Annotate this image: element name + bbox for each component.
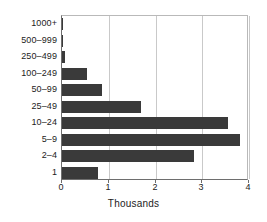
y-axis-tick-label: 500–999 bbox=[0, 35, 57, 45]
bar bbox=[62, 51, 65, 63]
y-axis-tick-label: 2–4 bbox=[0, 150, 57, 160]
bar-row bbox=[62, 84, 249, 96]
y-axis-tick-label: 100–249 bbox=[0, 68, 57, 78]
y-axis-tick-label: 25–49 bbox=[0, 101, 57, 111]
y-axis-tick-labels: 1000+500–999250–499100–24950–9925–4910–2… bbox=[0, 15, 57, 180]
x-axis-tick-label: 2 bbox=[152, 182, 157, 193]
y-axis-tick-label: 1 bbox=[0, 167, 57, 177]
bar bbox=[62, 68, 87, 80]
y-axis-tick-label: 10–24 bbox=[0, 117, 57, 127]
x-axis-tick-label: 4 bbox=[245, 182, 250, 193]
plot-area bbox=[61, 15, 248, 180]
bar-row bbox=[62, 101, 249, 113]
x-axis-tick-label: 0 bbox=[58, 182, 63, 193]
bar bbox=[62, 167, 98, 179]
y-axis-tick-label: 1000+ bbox=[0, 18, 57, 28]
x-axis-tick-label: 1 bbox=[105, 182, 110, 193]
bar bbox=[62, 134, 240, 146]
bar bbox=[62, 101, 141, 113]
bar bbox=[62, 117, 228, 129]
bar-row bbox=[62, 117, 249, 129]
bar-row bbox=[62, 167, 249, 179]
bar bbox=[62, 150, 194, 162]
x-axis-title: Thousands bbox=[0, 198, 267, 210]
bar-row bbox=[62, 18, 249, 30]
bar bbox=[62, 84, 102, 96]
bar bbox=[62, 35, 63, 47]
bar-row bbox=[62, 35, 249, 47]
y-axis-tick-label: 5–9 bbox=[0, 134, 57, 144]
bar-row bbox=[62, 51, 249, 63]
x-axis-tick-label: 3 bbox=[198, 182, 203, 193]
bar-row bbox=[62, 68, 249, 80]
bar-row bbox=[62, 134, 249, 146]
y-axis-tick-label: 50–99 bbox=[0, 84, 57, 94]
gridline-4 bbox=[249, 16, 250, 179]
bar bbox=[62, 18, 63, 30]
x-axis-tick-labels: 01234 bbox=[61, 182, 248, 196]
bar-chart: 1000+500–999250–499100–24950–9925–4910–2… bbox=[0, 0, 267, 222]
y-axis-tick-label: 250–499 bbox=[0, 51, 57, 61]
bar-series bbox=[62, 16, 247, 179]
bar-row bbox=[62, 150, 249, 162]
